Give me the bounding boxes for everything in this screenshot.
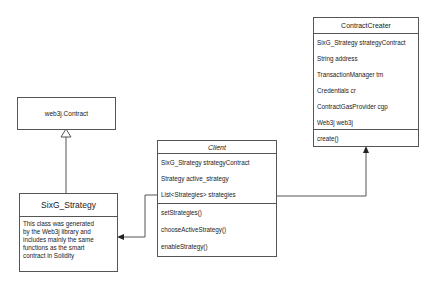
- methods-section: create(): [314, 130, 418, 146]
- class-client: Client SixG_Strategy strategyContract St…: [157, 140, 277, 257]
- class-sixg-strategy: SixG_Strategy This class was generated b…: [19, 193, 118, 272]
- class-note: This class was generated by the Web3j li…: [20, 217, 117, 263]
- method: setStrategies(): [158, 204, 276, 221]
- attribute: Credentials cr: [314, 82, 418, 98]
- association-arrow-icon: [117, 234, 124, 240]
- attribute: SixG_Strategy strategyContract: [158, 154, 276, 170]
- class-name: ContractCreater: [314, 18, 418, 34]
- note-line: functions as the smart: [23, 244, 114, 252]
- class-name: web3j.Contract: [18, 98, 115, 129]
- attributes-section: SixG_Strategy strategyContract Strategy …: [158, 154, 276, 204]
- class-name: SixG_Strategy: [20, 194, 117, 217]
- inheritance-arrow-icon: [61, 129, 71, 137]
- method: chooseActiveStrategy(): [158, 221, 276, 238]
- note-line: by the Web3j library and: [23, 228, 114, 236]
- attribute: Web3j web3j: [314, 114, 418, 130]
- note-line: This class was generated: [23, 220, 114, 228]
- attribute: Strategy active_strategy: [158, 170, 276, 186]
- attribute: List<Strategies> strategies: [158, 186, 276, 202]
- class-web3j-contract: web3j.Contract: [17, 97, 116, 130]
- class-name: Client: [158, 141, 276, 154]
- method: create(): [314, 130, 418, 146]
- class-contract-creater: ContractCreater SixG_Strategy strategyCo…: [313, 17, 419, 147]
- attribute: String address: [314, 50, 418, 66]
- attribute: SixG_Strategy strategyContract: [314, 34, 418, 50]
- note-line: includes mainly the same: [23, 236, 114, 244]
- attributes-section: SixG_Strategy strategyContract String ad…: [314, 34, 418, 130]
- note-line: contract in Solidity: [23, 252, 114, 260]
- attribute: TransactionManager tm: [314, 66, 418, 82]
- association-arrow-icon: [363, 146, 369, 153]
- methods-section: setStrategies() chooseActiveStrategy() e…: [158, 204, 276, 256]
- method: enableStrategy(): [158, 238, 276, 255]
- attribute: ContractGasProvider cgp: [314, 98, 418, 114]
